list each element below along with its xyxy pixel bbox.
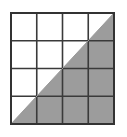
grid-diagram-figure: Four-by-four grid with diagonal half sha… [0,0,127,137]
grid-diagram-svg: Four-by-four grid with diagonal half sha… [0,0,127,137]
